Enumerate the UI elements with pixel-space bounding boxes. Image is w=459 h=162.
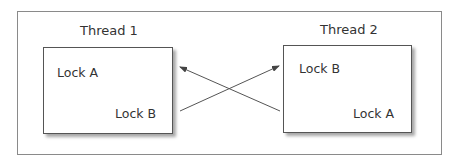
arrows-layer xyxy=(0,0,459,162)
